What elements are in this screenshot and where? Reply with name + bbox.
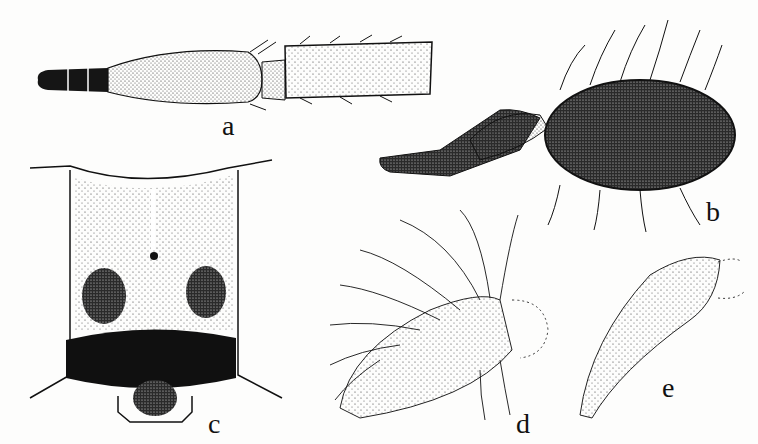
- figure-label-c: c: [208, 410, 220, 438]
- plate-drawings: [0, 0, 758, 444]
- figure-d-setose-appendage: [330, 210, 548, 420]
- figure-label-a: a: [222, 112, 234, 140]
- illustration-plate: a b c d e: [0, 0, 758, 444]
- figure-label-d: d: [516, 410, 530, 438]
- figure-a-antenna: [38, 35, 432, 110]
- figure-c-head-capsule: [30, 160, 282, 422]
- figure-label-b: b: [706, 198, 720, 226]
- figure-b-clubbed-antenna: [380, 20, 735, 232]
- figure-label-e: e: [662, 374, 674, 402]
